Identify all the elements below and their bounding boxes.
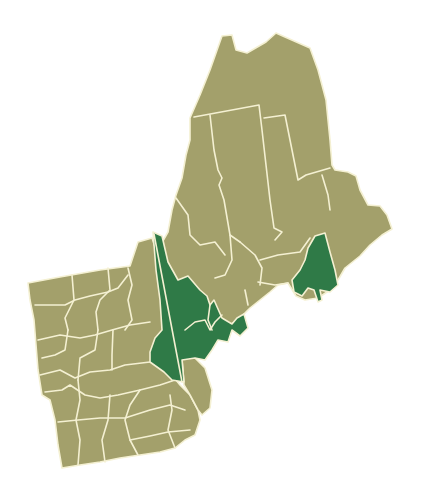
region-maine[interactable] bbox=[160, 33, 392, 325]
maine-north[interactable] bbox=[160, 33, 392, 325]
map-container bbox=[0, 0, 427, 497]
new-england-map bbox=[0, 0, 427, 497]
